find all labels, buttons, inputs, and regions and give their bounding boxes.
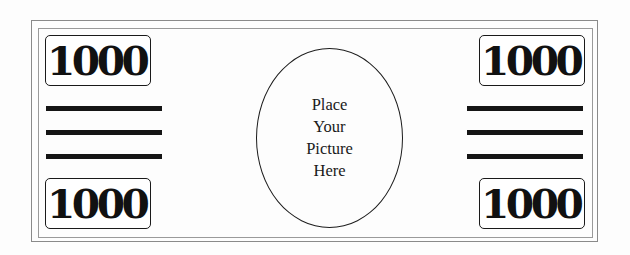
denomination-value: 1000 — [47, 41, 146, 81]
denomination-value: 1000 — [481, 184, 580, 224]
placeholder-text-line-2: Your — [313, 116, 345, 138]
denomination-box-top-left: 1000 — [45, 35, 151, 86]
decorative-bar-right-2 — [467, 130, 583, 135]
denomination-value: 1000 — [481, 41, 580, 81]
placeholder-text-line-3: Picture — [306, 138, 353, 160]
denomination-box-bottom-right: 1000 — [479, 178, 585, 229]
denomination-box-bottom-left: 1000 — [45, 178, 151, 229]
decorative-bar-right-3 — [467, 154, 583, 159]
decorative-bar-left-3 — [46, 154, 162, 159]
decorative-bar-left-1 — [46, 106, 162, 111]
placeholder-text-line-1: Place — [312, 94, 348, 116]
decorative-bar-right-1 — [467, 106, 583, 111]
denomination-box-top-right: 1000 — [479, 35, 585, 86]
placeholder-text-line-4: Here — [313, 160, 345, 182]
picture-placeholder-oval: Place Your Picture Here — [256, 48, 403, 228]
denomination-value: 1000 — [47, 184, 146, 224]
decorative-bar-left-2 — [46, 130, 162, 135]
